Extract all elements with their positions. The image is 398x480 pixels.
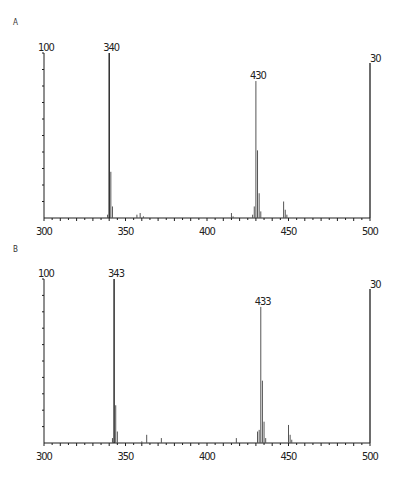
x-tick-label: 350 xyxy=(118,450,135,463)
x-tick-label: 300 xyxy=(36,450,53,463)
x-tick-label: 350 xyxy=(118,225,135,238)
spectrum-panel-b: B10030300350400450500343433 xyxy=(13,245,381,463)
peak-label: 430 xyxy=(250,69,267,82)
x-tick-label: 300 xyxy=(36,225,53,238)
peak-label: 433 xyxy=(255,295,272,308)
panel-label: A xyxy=(13,18,18,27)
x-tick-label: 500 xyxy=(362,225,379,238)
peak-label: 340 xyxy=(103,41,120,54)
x-tick-label: 400 xyxy=(199,225,216,238)
panel-label: B xyxy=(13,245,18,254)
x-tick-label: 450 xyxy=(281,225,298,238)
y-axis-max-label: 100 xyxy=(38,41,55,54)
y-axis-max-label: 100 xyxy=(38,267,55,280)
x-tick-label: 400 xyxy=(199,450,216,463)
x-tick-label: 500 xyxy=(362,450,379,463)
spectrum-panel-a: A10030300350400450500340430 xyxy=(13,18,381,238)
mass-spectra-figure: A10030300350400450500340430 B10030300350… xyxy=(0,0,398,480)
peak-label: 343 xyxy=(108,267,125,280)
x-tick-label: 450 xyxy=(281,450,298,463)
right-axis-scale-label: 30 xyxy=(370,278,381,291)
right-axis-scale-label: 30 xyxy=(370,52,381,65)
